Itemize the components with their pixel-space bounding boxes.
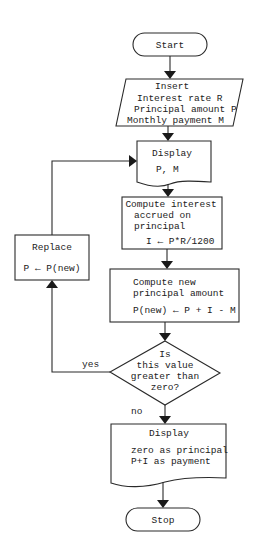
replace-title: Replace [32, 242, 72, 253]
display-result-document: Display zero as principal P+I as payment [111, 424, 228, 487]
decision-line-3: greater than [131, 371, 199, 382]
no-label: no [131, 406, 143, 417]
compute-principal-line-2: principal amount [133, 288, 224, 299]
arrow-up-icon [46, 280, 58, 288]
decision-line-4: zero? [151, 382, 180, 393]
input-parallelogram: Insert Interest rate R Principal amount … [116, 79, 243, 126]
arrow-down-icon [159, 416, 171, 424]
arrow-right-icon [129, 155, 137, 167]
compute-principal-line-1: Compute new [133, 277, 196, 288]
decision-line-1: Is [159, 349, 170, 360]
start-terminal: Start [133, 33, 207, 56]
input-line-monthly-payment: Monthly payment M [127, 115, 224, 126]
display1-values: P, M [156, 164, 179, 175]
stop-label: Stop [152, 515, 175, 526]
display2-line-1: zero as principal [131, 445, 228, 456]
compute-interest-line-2: accrued on [134, 210, 191, 221]
display2-line-2: P+I as payment [131, 456, 211, 467]
replace-formula: P ← P(new) [23, 263, 80, 274]
compute-interest-line-3: principal [134, 221, 186, 232]
display1-title: Display [152, 148, 192, 159]
display2-title: Display [149, 428, 189, 439]
arrow-down-icon [164, 71, 176, 79]
arrow-down-icon [157, 500, 169, 508]
start-label: Start [156, 40, 185, 51]
display-p-m-document: Display P, M [137, 141, 211, 186]
input-line-interest-rate: Interest rate R [137, 93, 223, 104]
compute-principal-formula: P(new) ← P + I - M [133, 305, 236, 316]
compute-principal-box: Compute new principal amount P(new) ← P … [110, 269, 239, 322]
arrow-down-icon [162, 133, 174, 141]
compute-interest-box: Compute interest accrued on principal I … [122, 197, 222, 249]
compute-interest-line-1: Compute interest [125, 199, 216, 210]
input-line-principal: Principal amount P [134, 104, 237, 115]
decision-diamond: Is this value greater than zero? [110, 341, 220, 405]
stop-terminal: Stop [126, 508, 200, 531]
decision-line-2: this value [136, 360, 193, 371]
compute-interest-formula: I ← P*R/1200 [146, 236, 215, 247]
arrow-down-icon [159, 333, 171, 341]
yes-label: yes [82, 359, 99, 370]
arrow-down-icon [161, 261, 173, 269]
input-title: Insert [155, 81, 189, 92]
replace-box: Replace P ← P(new) [15, 235, 89, 280]
arrow-down-icon [162, 189, 174, 197]
loan-flowchart: Start Insert Interest rate R Principal a… [0, 0, 257, 557]
